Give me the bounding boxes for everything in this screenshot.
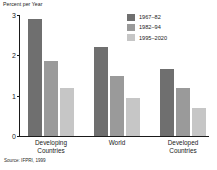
bar xyxy=(192,108,206,136)
source-note: Source: IFPRI, 1999 xyxy=(4,158,46,163)
y-axis-tick-label: 2 xyxy=(12,52,16,59)
bar xyxy=(160,69,174,136)
bar xyxy=(28,19,42,136)
legend-label: 1995–2020 xyxy=(139,35,167,41)
y-axis-line xyxy=(19,16,20,137)
y-axis-tick-label: 1 xyxy=(12,92,16,99)
legend-swatch-icon xyxy=(127,34,135,41)
x-axis-category-label: Developing Countries xyxy=(18,139,84,154)
bar xyxy=(94,47,108,136)
bar xyxy=(110,76,124,137)
y-axis-tick-mark xyxy=(17,55,20,56)
x-axis-category-label: World xyxy=(84,139,150,147)
legend-item[interactable]: 1995–2020 xyxy=(127,33,197,42)
x-axis-category-label: Developed Countries xyxy=(150,139,216,154)
bar xyxy=(44,61,58,136)
bar-group xyxy=(28,15,74,136)
legend-item[interactable]: 1982–94 xyxy=(127,23,197,32)
chart-figure: Percent per Year 0123 Developing Countri… xyxy=(0,0,217,170)
bar xyxy=(126,98,140,136)
x-axis-line xyxy=(19,136,209,137)
chart-legend: 1967–821982–941995–2020 xyxy=(127,13,197,44)
bar xyxy=(176,88,190,136)
legend-label: 1982–94 xyxy=(139,24,161,30)
y-axis-tick-mark xyxy=(17,15,20,16)
legend-swatch-icon xyxy=(127,24,135,31)
bar xyxy=(60,88,74,136)
y-axis-tick-mark xyxy=(17,96,20,97)
y-axis-tick-label: 0 xyxy=(12,133,16,140)
legend-item[interactable]: 1967–82 xyxy=(127,13,197,22)
y-axis-label: Percent per Year xyxy=(3,1,42,7)
y-axis-tick-mark xyxy=(17,136,20,137)
legend-label: 1967–82 xyxy=(139,14,161,20)
legend-swatch-icon xyxy=(127,14,135,21)
y-axis-tick-label: 3 xyxy=(12,12,16,19)
